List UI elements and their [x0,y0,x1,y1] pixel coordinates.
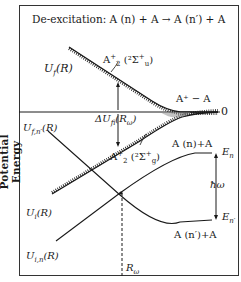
label-state-u: A+2 (²Σ+u) [103,54,153,68]
label-uf: Uf(R) [44,63,73,77]
label-anp-a: A (n′)+A [174,230,217,240]
label-zero: 0 [221,106,228,117]
label-an-a: A (n)+A [172,139,212,149]
label-en: En [222,147,234,160]
label-hbar-omega: ħω [210,180,225,190]
label-ui: Ui(R) [26,208,52,221]
label-uin: Ui,n(R) [26,251,59,264]
label-r-omega: Rω [126,263,139,276]
label-state-g: A+2 (²Σ+g) [110,151,160,165]
label-ufn: Uf,n′(R) [23,123,57,136]
label-asymptote: A⁺ − A [176,94,210,104]
label-delta-u: ΔUfi(Rω) [95,114,136,127]
label-enp: En′ [222,212,235,225]
process-title: De-excitation: A (n) + A → A (n′) + A [32,14,225,25]
uin-curve [56,153,212,241]
